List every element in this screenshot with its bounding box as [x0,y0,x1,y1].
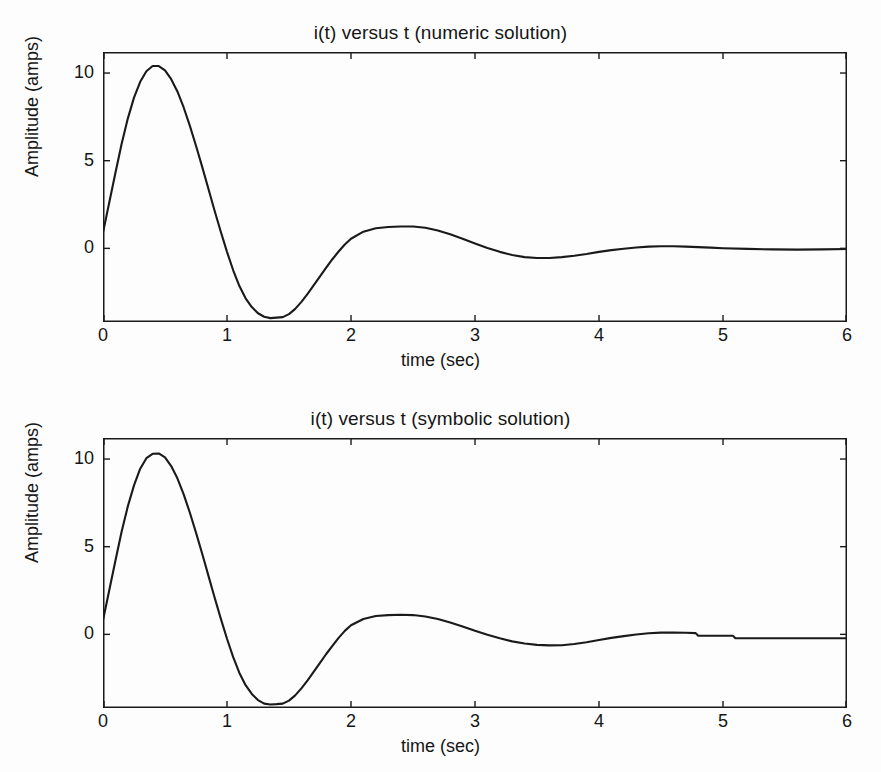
x-tick-label: 6 [827,326,867,344]
y-axis-label-symbolic: Amplitude (amps) [22,383,43,603]
plot-area-symbolic [103,438,847,708]
x-axis-label-symbolic: time (sec) [0,736,881,757]
y-tick-label: 5 [50,151,94,169]
axes-box [104,439,847,708]
x-tick-label: 0 [83,326,123,344]
y-tick-label: 10 [50,449,94,467]
plot-svg-numeric [103,52,847,322]
axes-box [104,53,847,322]
x-tick-label: 4 [579,326,619,344]
chart-title-symbolic: i(t) versus t (symbolic solution) [0,408,881,430]
y-axis-label-numeric: Amplitude (amps) [22,0,43,217]
y-tick-labels-symbolic: 0510 [48,438,94,708]
chart-title-numeric: i(t) versus t (numeric solution) [0,22,881,44]
chart-panel-numeric: i(t) versus t (numeric solution) Amplitu… [0,0,881,386]
x-tick-label: 5 [703,326,743,344]
x-tick-label: 1 [207,712,247,730]
y-tick-label: 0 [50,238,94,256]
x-tick-label: 2 [331,712,371,730]
x-tick-label: 1 [207,326,247,344]
x-tick-label: 2 [331,326,371,344]
data-line [103,453,847,704]
x-tick-label: 4 [579,712,619,730]
y-tick-label: 0 [50,624,94,642]
x-tick-label: 6 [827,712,867,730]
x-tick-label: 5 [703,712,743,730]
chart-panel-symbolic: i(t) versus t (symbolic solution) Amplit… [0,386,881,772]
plot-svg-symbolic [103,438,847,708]
figure-page: i(t) versus t (numeric solution) Amplitu… [0,0,881,772]
x-tick-label: 3 [455,326,495,344]
y-tick-labels-numeric: 0510 [48,52,94,322]
y-tick-label: 5 [50,537,94,555]
x-tick-label: 3 [455,712,495,730]
plot-area-numeric [103,52,847,322]
x-tick-label: 0 [83,712,123,730]
data-line [103,66,847,318]
y-tick-label: 10 [50,63,94,81]
x-axis-label-numeric: time (sec) [0,350,881,371]
